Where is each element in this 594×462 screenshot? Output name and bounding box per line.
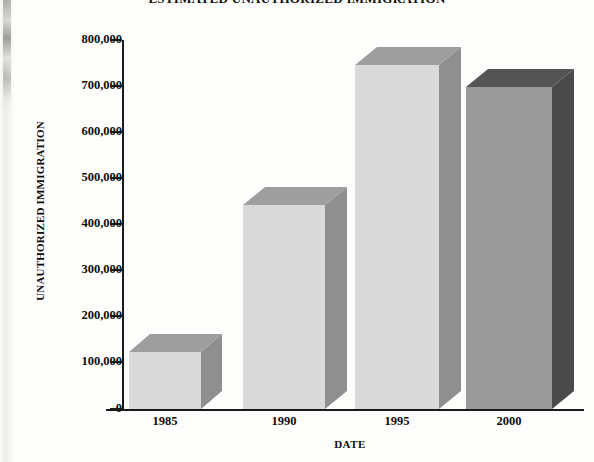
y-tick-300000: 300,000 — [0, 262, 122, 278]
tick-mark — [110, 361, 122, 363]
tick-mark — [110, 223, 122, 225]
bar-1990[interactable] — [243, 0, 347, 411]
y-axis-line — [122, 40, 124, 411]
plot-area: 800,000 700,000 600,000 500,000 400,000 … — [0, 0, 594, 462]
x-tick-label-1995: 1995 — [355, 414, 439, 429]
y-tick-100000: 100,000 — [0, 354, 122, 370]
y-tick-label: 200,000 — [30, 308, 122, 323]
tick-mark — [110, 85, 122, 87]
bar-1985[interactable] — [129, 0, 222, 411]
x-tick-label-2000: 2000 — [466, 414, 552, 429]
y-tick-label: 300,000 — [30, 262, 122, 277]
y-tick-600000: 600,000 — [0, 124, 122, 140]
bar-side-face — [325, 187, 347, 409]
y-tick-400000: 400,000 — [0, 216, 122, 232]
bar-side-face — [439, 47, 461, 409]
tick-mark — [110, 39, 122, 41]
y-tick-label: 600,000 — [30, 124, 122, 139]
y-tick-800000: 800,000 — [0, 32, 122, 48]
y-tick-label: 0 — [30, 401, 122, 416]
y-tick-label: 100,000 — [30, 354, 122, 369]
y-tick-0: 0 — [0, 401, 122, 417]
x-tick-label-1990: 1990 — [243, 414, 325, 429]
tick-mark — [110, 408, 122, 410]
tick-mark — [110, 131, 122, 133]
bar-front-face — [243, 205, 325, 409]
y-tick-200000: 200,000 — [0, 308, 122, 324]
y-tick-500000: 500,000 — [0, 170, 122, 186]
bar-side-face — [552, 69, 574, 409]
y-tick-label: 700,000 — [30, 78, 122, 93]
y-tick-label: 400,000 — [30, 216, 122, 231]
y-tick-700000: 700,000 — [0, 78, 122, 94]
chart-page: ESTIMATED UNAUTHORIZED IMMIGRATION UNAUT… — [0, 0, 594, 462]
bar-front-face — [355, 65, 439, 409]
bar-front-face — [129, 352, 201, 409]
x-tick-label-1985: 1985 — [129, 414, 201, 429]
y-tick-label: 800,000 — [30, 32, 122, 47]
tick-mark — [110, 177, 122, 179]
tick-mark — [110, 269, 122, 271]
bar-1995[interactable] — [355, 0, 461, 411]
bar-front-face — [466, 87, 552, 409]
bar-2000[interactable] — [466, 0, 574, 411]
y-tick-label: 500,000 — [30, 170, 122, 185]
tick-mark — [110, 315, 122, 317]
